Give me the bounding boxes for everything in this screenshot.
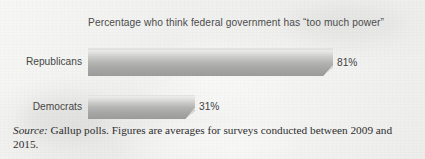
- bar-republicans-fill: [88, 48, 333, 76]
- bar-democrats: [88, 95, 195, 119]
- chart-title: Percentage who think federal government …: [88, 17, 384, 28]
- category-label-republicans: Republicans: [26, 56, 82, 67]
- source-note: Source: Gallup polls. Figures are averag…: [13, 124, 413, 151]
- value-label-republicans: 81%: [337, 57, 357, 68]
- bar-chart-figure: Percentage who think federal government …: [0, 0, 425, 159]
- bar-republicans: [88, 48, 333, 76]
- bar-democrats-fill: [88, 95, 195, 119]
- source-label: Source:: [13, 124, 48, 136]
- source-text: Gallup polls. Figures are averages for s…: [13, 124, 392, 150]
- value-label-democrats: 31%: [199, 101, 219, 112]
- category-label-democrats: Democrats: [33, 101, 82, 112]
